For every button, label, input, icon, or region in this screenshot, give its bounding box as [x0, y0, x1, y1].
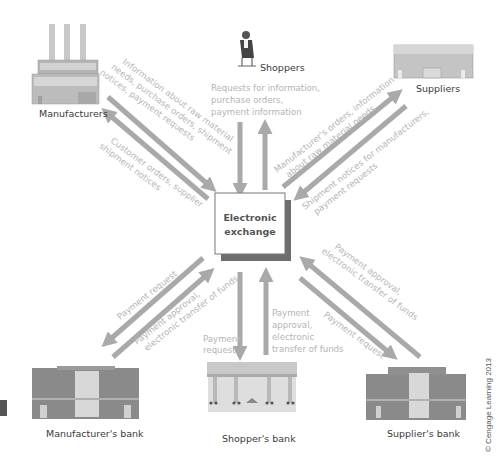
copyright-credit: © Cengage Learning 2013: [484, 357, 493, 452]
ecommerce-exchange-diagram: Information about raw material needs, pu…: [0, 0, 500, 472]
flow-text-shoppers-2: purchase orders,: [211, 95, 283, 105]
warehouse-icon: [394, 45, 473, 78]
shopper-person-icon: [238, 31, 256, 66]
manufacturers-label: Manufacturers: [39, 108, 108, 119]
manufacturers-bank-building-icon: [32, 366, 139, 419]
factory-icon: [32, 24, 99, 104]
hub-box: [215, 193, 285, 254]
manufacturers-bank-label: Manufacturer's bank: [46, 428, 144, 439]
shoppers-bank-building-icon: [207, 362, 297, 412]
suppliers-bank-label: Supplier's bank: [387, 428, 461, 439]
shoppers-bank-label: Shopper's bank: [222, 433, 296, 444]
flow-text-sbank-request-2: request: [203, 345, 236, 355]
flow-text-shoppers-3: payment information: [211, 107, 302, 117]
suppliers-bank-building-icon: [366, 367, 466, 420]
flow-text-sbank-request-1: Payment: [203, 334, 241, 344]
shoppers-label: Shoppers: [260, 62, 305, 73]
flow-text-sbank-approval-4: transfer of funds: [272, 344, 344, 354]
suppliers-label: Suppliers: [416, 83, 460, 94]
flow-text-sbank-approval-3: electronic: [272, 332, 314, 342]
electronic-exchange-hub: Electronic exchange: [215, 193, 291, 261]
flow-text-shoppers-1: Requests for information,: [211, 83, 320, 93]
flow-text-sbank-approval-1: Payment: [272, 308, 310, 318]
flow-text-sbank-approval-2: approval,: [272, 320, 312, 330]
hub-label-line2: exchange: [224, 226, 275, 237]
hub-label-line1: Electronic: [223, 212, 276, 223]
side-marker: [0, 400, 7, 416]
